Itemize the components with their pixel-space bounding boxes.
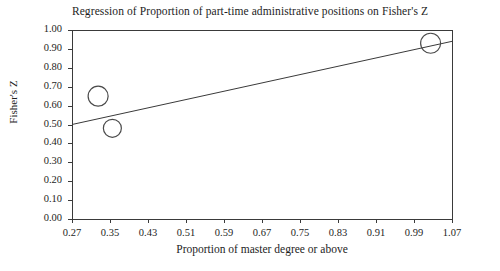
y-axis-tick-label: 0.00 — [22, 212, 62, 223]
y-axis-tick-label: 0.40 — [22, 136, 62, 147]
y-axis-tick-label: 0.50 — [22, 118, 62, 129]
x-axis-tick-label: 1.07 — [430, 227, 474, 238]
data-point-marker — [103, 119, 121, 137]
y-axis-tick-label: 0.90 — [22, 42, 62, 53]
y-axis-tick-label: 0.20 — [22, 174, 62, 185]
y-axis-tick-label: 0.30 — [22, 155, 62, 166]
plot-frame — [73, 31, 453, 220]
y-axis-tick-label: 0.10 — [22, 193, 62, 204]
data-point-marker — [421, 33, 441, 53]
y-axis-tick-label: 1.00 — [22, 23, 62, 34]
data-point-marker — [88, 86, 108, 106]
regression-line — [72, 41, 452, 124]
y-axis-tick-label: 0.60 — [22, 99, 62, 110]
y-axis-tick-label: 0.70 — [22, 80, 62, 91]
regression-scatter-chart: Regression of Proportion of part-time ad… — [0, 0, 500, 271]
y-axis-tick-label: 0.80 — [22, 61, 62, 72]
